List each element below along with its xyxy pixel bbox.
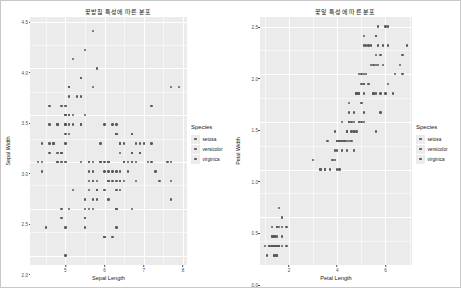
data-point-versicolor <box>338 140 340 142</box>
chart-page: 꽃받침 특성에 따른 분포 Sepal Width 2.02.53.03.54.… <box>0 0 461 288</box>
data-point-virginica <box>166 161 168 163</box>
sepal-y-axis-label-wrap: Sepal Width <box>3 17 13 285</box>
y-tick-label: 4.0 <box>22 70 28 75</box>
sepal-legend-title: Species <box>191 124 233 130</box>
data-point-versicolor <box>353 111 355 113</box>
data-point-setosa <box>281 235 283 237</box>
sepal-y-axis-label: Sepal Width <box>5 136 11 165</box>
data-point-setosa <box>64 123 66 125</box>
y-tick-label: 1.0 <box>252 179 258 184</box>
data-point-setosa <box>285 245 287 247</box>
data-point-setosa <box>273 245 275 247</box>
data-point-virginica <box>387 25 389 27</box>
y-tick-label: 2.0 <box>22 272 28 277</box>
data-point-versicolor <box>92 198 94 200</box>
data-point-setosa <box>273 254 275 256</box>
legend-item-versicolor[interactable]: versicolor <box>416 144 458 154</box>
data-point-setosa <box>281 245 283 247</box>
gridline-major-vertical <box>144 17 145 265</box>
data-point-versicolor <box>360 102 362 104</box>
data-point-virginica <box>375 64 377 66</box>
data-point-virginica <box>119 189 121 191</box>
data-point-versicolor <box>88 189 90 191</box>
data-point-setosa <box>266 254 268 256</box>
legend-key-icon <box>416 135 425 144</box>
legend-label: versicolor <box>202 147 222 152</box>
data-point-setosa <box>72 123 74 125</box>
data-point-virginica <box>139 152 141 154</box>
data-point-setosa <box>64 105 66 107</box>
data-point-versicolor <box>103 170 105 172</box>
data-point-virginica <box>370 64 372 66</box>
sepal-chart-title: 꽃받침 특성에 따른 분포 <box>3 5 233 17</box>
data-point-setosa <box>60 152 62 154</box>
gridline-minor-horizontal <box>260 50 412 51</box>
data-point-virginica <box>358 92 360 94</box>
data-point-virginica <box>384 92 386 94</box>
data-point-virginica <box>111 180 113 182</box>
gridline-major-horizontal <box>30 22 187 23</box>
legend-item-versicolor[interactable]: versicolor <box>191 144 233 154</box>
data-point-virginica <box>178 86 180 88</box>
y-tick-label: 0.0 <box>252 283 258 288</box>
data-point-versicolor <box>119 170 121 172</box>
sepal-legend: Species setosa versicolor virginica <box>187 17 233 285</box>
data-point-virginica <box>131 133 133 135</box>
data-point-setosa <box>48 105 50 107</box>
y-tick-label: 2.5 <box>22 222 28 227</box>
gridline-minor-vertical <box>265 17 266 265</box>
legend-item-virginica[interactable]: virginica <box>416 154 458 164</box>
data-point-versicolor <box>338 168 340 170</box>
data-point-virginica <box>88 180 90 182</box>
data-point-setosa <box>64 142 66 144</box>
data-point-versicolor <box>331 159 333 161</box>
data-point-versicolor <box>88 208 90 210</box>
data-point-virginica <box>375 35 377 37</box>
x-tick-label: 4 <box>336 268 339 273</box>
data-point-virginica <box>139 142 141 144</box>
data-point-virginica <box>115 208 117 210</box>
data-point-setosa <box>281 216 283 218</box>
data-point-setosa <box>276 226 278 228</box>
data-point-versicolor <box>72 189 74 191</box>
gridline-major-horizontal <box>260 27 412 28</box>
gridline-major-vertical <box>385 17 386 265</box>
legend-label: setosa <box>428 137 442 142</box>
data-point-versicolor <box>107 170 109 172</box>
data-point-virginica <box>60 208 62 210</box>
data-point-virginica <box>392 92 394 94</box>
data-point-virginica <box>170 198 172 200</box>
data-point-virginica <box>367 83 369 85</box>
data-point-setosa <box>68 86 70 88</box>
data-point-setosa <box>278 207 280 209</box>
data-point-setosa <box>276 235 278 237</box>
legend-item-setosa[interactable]: setosa <box>416 134 458 144</box>
data-point-virginica <box>387 44 389 46</box>
data-point-virginica <box>401 54 403 56</box>
data-point-setosa <box>56 123 58 125</box>
data-point-setosa <box>41 170 43 172</box>
legend-key-icon <box>416 155 425 164</box>
data-point-versicolor <box>334 130 336 132</box>
data-point-setosa <box>68 123 70 125</box>
data-point-setosa <box>41 142 43 144</box>
legend-item-setosa[interactable]: setosa <box>191 134 233 144</box>
data-point-versicolor <box>334 159 336 161</box>
data-point-setosa <box>64 133 66 135</box>
data-point-versicolor <box>84 226 86 228</box>
data-point-virginica <box>375 92 377 94</box>
sepal-x-tick-labels: 5678 <box>30 265 187 274</box>
data-point-setosa <box>276 254 278 256</box>
gridline-minor-vertical <box>163 17 164 265</box>
data-point-versicolor <box>64 226 66 228</box>
data-point-virginica <box>382 64 384 66</box>
sepal-y-tick-labels: 2.02.53.03.54.04.5 <box>13 17 30 285</box>
data-point-versicolor <box>319 168 321 170</box>
data-point-setosa <box>281 226 283 228</box>
petal-y-axis-label-wrap: Petal Width <box>233 17 243 285</box>
data-point-virginica <box>379 54 381 56</box>
gridline-major-vertical <box>183 17 184 265</box>
data-point-setosa <box>80 77 82 79</box>
data-point-virginica <box>363 83 365 85</box>
legend-item-virginica[interactable]: virginica <box>191 154 233 164</box>
